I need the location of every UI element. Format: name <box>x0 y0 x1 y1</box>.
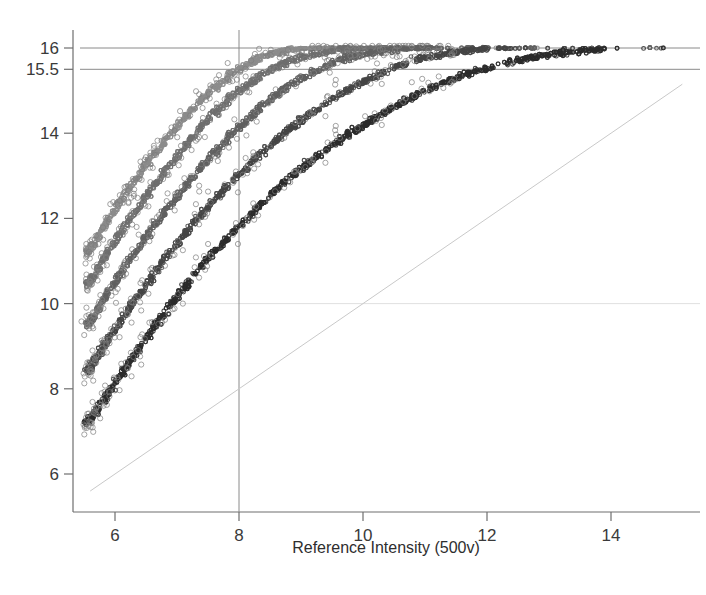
data-point <box>261 150 265 154</box>
data-point-outlier <box>113 300 118 305</box>
chart-container: 68101214 6810121415.516 Reference Intens… <box>0 0 706 595</box>
data-point-outlier <box>104 263 109 268</box>
data-point <box>236 127 240 131</box>
y-tick-label: 16 <box>40 39 59 58</box>
data-point-outlier <box>254 119 259 124</box>
data-point-outlier <box>365 56 370 61</box>
data-point-outlier <box>83 261 88 266</box>
data-point-outlier <box>90 399 95 404</box>
series-5-points <box>81 46 665 437</box>
data-point-outlier <box>243 74 248 79</box>
y-tick-label: 15.5 <box>26 60 59 79</box>
data-point-outlier <box>441 85 446 90</box>
data-point-outlier <box>129 320 134 325</box>
x-tick-label: 14 <box>602 526 621 545</box>
series-4-points <box>81 43 663 386</box>
identity-line <box>90 84 682 491</box>
y-tick-label: 8 <box>50 380 59 399</box>
data-point <box>294 56 298 60</box>
data-point-outlier <box>235 241 240 246</box>
data-point-outlier <box>102 383 107 388</box>
data-point-outlier <box>139 362 144 367</box>
data-point <box>288 173 292 177</box>
data-point-outlier <box>104 350 109 355</box>
y-ticks-group: 6810121415.516 <box>26 39 73 484</box>
data-point-outlier <box>164 198 169 203</box>
data-point-outlier <box>379 122 384 127</box>
data-point <box>264 153 268 157</box>
data-point-outlier <box>244 133 249 138</box>
reference-lines-group <box>80 30 700 512</box>
data-point-outlier <box>98 416 103 421</box>
y-tick-label: 6 <box>50 465 59 484</box>
data-point <box>162 254 166 258</box>
data-point-outlier <box>436 74 441 79</box>
data-point-outlier <box>175 135 180 140</box>
data-point-outlier <box>139 308 144 313</box>
data-point-outlier <box>202 134 207 139</box>
data-point-outlier <box>243 155 248 160</box>
data-point-outlier <box>214 77 219 82</box>
data-point-outlier <box>91 378 96 383</box>
data-point-outlier <box>200 105 205 110</box>
data-point <box>496 62 500 66</box>
data-point-outlier <box>323 160 328 165</box>
data-point-outlier <box>137 300 142 305</box>
data-point-outlier <box>420 76 425 81</box>
data-point-outlier <box>379 81 384 86</box>
data-point <box>149 336 153 340</box>
data-point-outlier <box>98 292 103 297</box>
data-point-outlier <box>323 114 328 119</box>
x-tick-label: 6 <box>110 526 119 545</box>
data-point-outlier <box>255 162 260 167</box>
data-point-outlier <box>177 108 182 113</box>
data-point-outlier <box>197 189 202 194</box>
data-point-outlier <box>136 232 141 237</box>
data-point-outlier <box>146 204 151 209</box>
data-point <box>116 236 120 240</box>
plot-frame <box>73 30 700 512</box>
data-point <box>177 123 181 127</box>
data-point-outlier <box>130 222 135 227</box>
data-point <box>208 112 212 116</box>
data-point-outlier <box>225 60 230 65</box>
data-point <box>308 75 312 79</box>
y-tick-label: 14 <box>40 124 59 143</box>
y-tick-label: 12 <box>40 209 59 228</box>
data-point-outlier <box>252 166 257 171</box>
scatter-plot-svg: 68101214 6810121415.516 Reference Intens… <box>0 0 706 595</box>
data-point-outlier <box>196 275 201 280</box>
data-point-outlier <box>82 381 87 386</box>
data-point-outlier <box>84 305 89 310</box>
data-point-outlier <box>193 255 198 260</box>
data-point-outlier <box>176 163 181 168</box>
data-point-outlier <box>82 332 87 337</box>
data-point-outlier <box>147 239 152 244</box>
data-point-outlier <box>327 70 332 75</box>
data-point <box>302 158 306 162</box>
data-point-outlier <box>189 147 194 152</box>
data-point-outlier <box>409 80 414 85</box>
data-point-outlier <box>363 114 368 119</box>
data-point-outlier <box>255 213 260 218</box>
data-point <box>200 207 204 211</box>
x-tick-label: 8 <box>234 526 243 545</box>
data-point-outlier <box>182 176 187 181</box>
data-point-outlier <box>251 201 256 206</box>
data-point-outlier <box>232 117 237 122</box>
data-point <box>145 279 149 283</box>
data-point-outlier <box>251 150 256 155</box>
data-point-outlier <box>172 208 177 213</box>
data-point-outlier <box>129 374 134 379</box>
data-point-outlier <box>374 61 379 66</box>
data-point-outlier <box>205 189 210 194</box>
data-point-outlier <box>226 145 231 150</box>
data-point-outlier <box>257 46 262 51</box>
data-point-outlier <box>146 291 151 296</box>
data-point <box>167 312 171 316</box>
series-3-points <box>79 43 652 337</box>
data-point-outlier <box>82 432 87 437</box>
data-point <box>208 152 212 156</box>
data-point-outlier <box>192 265 197 270</box>
data-point-outlier <box>193 89 198 94</box>
